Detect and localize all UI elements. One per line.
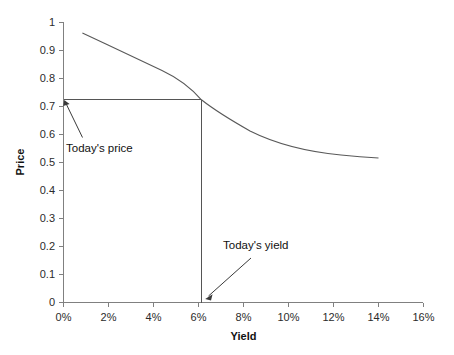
y-tick-label: 0.7 (40, 100, 55, 112)
chart-background (0, 0, 454, 355)
x-tick-label: 4% (146, 311, 162, 323)
x-tick-label: 2% (101, 311, 117, 323)
y-tick-label: 0.8 (40, 72, 55, 84)
y-tick-label: 1 (49, 16, 55, 28)
x-tick-label: 14% (367, 311, 389, 323)
x-tick-label: 0% (56, 311, 72, 323)
y-axis-title: Price (14, 149, 26, 176)
y-tick-label: 0.3 (40, 212, 55, 224)
price-yield-chart: 0 0.1 0.2 0.3 0.4 0.5 0.6 0.7 0.8 0.9 1 (0, 0, 454, 355)
y-tick-label: 0.2 (40, 240, 55, 252)
y-tick-label: 0 (49, 296, 55, 308)
y-tick-label: 0.1 (40, 268, 55, 280)
x-tick-label: 8% (236, 311, 252, 323)
x-tick-labels-group: 0% 2% 4% 6% 8% 10% 12% 14% 16% (56, 311, 435, 323)
todays-yield-label: Today's yield (223, 239, 288, 251)
x-tick-label: 10% (277, 311, 299, 323)
y-tick-label: 0.9 (40, 44, 55, 56)
todays-price-label: Today's price (66, 142, 133, 154)
x-tick-label: 16% (412, 311, 434, 323)
x-tick-label: 6% (191, 311, 207, 323)
x-tick-label: 12% (322, 311, 344, 323)
y-tick-label: 0.5 (40, 156, 55, 168)
y-tick-label: 0.6 (40, 128, 55, 140)
y-tick-label: 0.4 (40, 184, 55, 196)
x-axis-title: Yield (231, 330, 257, 342)
chart-canvas: 0 0.1 0.2 0.3 0.4 0.5 0.6 0.7 0.8 0.9 1 (0, 0, 454, 355)
